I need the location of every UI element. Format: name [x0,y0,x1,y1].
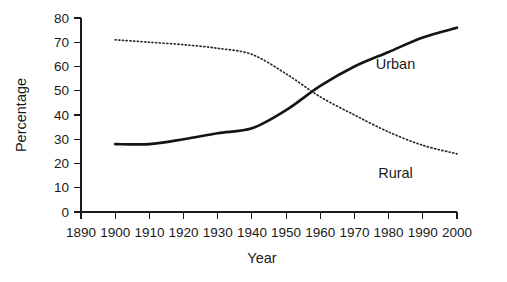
y-tick-label-70: 70 [54,35,69,50]
series-line-urban [115,28,457,145]
x-tick-label-1960: 1960 [305,225,335,240]
y-tick-label-20: 20 [54,156,69,171]
y-tick-label-60: 60 [54,59,69,74]
x-tick-label-1900: 1900 [100,225,130,240]
x-tick-label-1910: 1910 [134,225,164,240]
x-tick-label-2000: 2000 [442,225,472,240]
line-chart: 0 10 20 30 40 50 60 70 80 1890 [0,0,507,282]
x-axis-tick-labels: 1890 1900 1910 1920 1930 1940 1950 1960 … [66,225,472,240]
x-tick-label-1990: 1990 [408,225,438,240]
y-axis-tick-labels: 0 10 20 30 40 50 60 70 80 [54,11,69,220]
series-label-urban: Urban [376,56,416,72]
x-axis-title: Year [247,250,276,266]
y-tick-label-10: 10 [54,180,69,195]
y-axis-ticks [74,18,81,212]
y-tick-label-30: 30 [54,132,69,147]
x-tick-label-1890: 1890 [66,225,96,240]
y-tick-label-80: 80 [54,11,69,26]
x-tick-label-1980: 1980 [374,225,404,240]
series-label-rural: Rural [378,165,413,181]
x-axis-ticks [81,212,457,219]
y-tick-label-50: 50 [54,83,69,98]
chart-container: 0 10 20 30 40 50 60 70 80 1890 [0,0,507,282]
x-tick-label-1920: 1920 [168,225,198,240]
y-tick-label-40: 40 [54,108,69,123]
x-tick-label-1950: 1950 [271,225,301,240]
y-axis-title: Percentage [13,78,29,152]
x-tick-label-1930: 1930 [203,225,233,240]
x-tick-label-1970: 1970 [339,225,369,240]
x-tick-label-1940: 1940 [237,225,267,240]
y-tick-label-0: 0 [61,205,69,220]
